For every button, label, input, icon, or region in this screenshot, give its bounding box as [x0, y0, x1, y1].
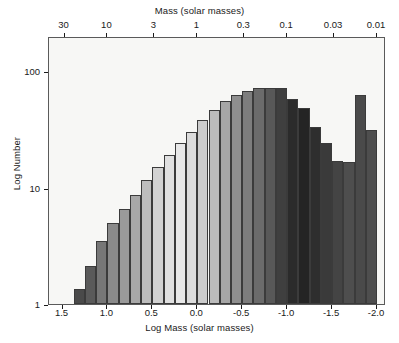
top-axis-title: Mass (solar masses)	[0, 5, 399, 16]
top-tick-label: 0.3	[223, 19, 263, 30]
top-tick-label: 3	[133, 19, 173, 30]
histogram-bar	[119, 209, 130, 304]
histogram-bar	[186, 132, 197, 304]
histogram-bar	[74, 289, 85, 304]
top-tick-label: 10	[86, 19, 126, 30]
histogram-bar	[242, 91, 253, 304]
histogram-bar	[231, 95, 242, 304]
histogram-bar	[298, 108, 309, 304]
top-tick-label: 0.03	[313, 19, 353, 30]
x-tick-label: -1.5	[311, 307, 351, 318]
histogram-bar	[209, 110, 220, 304]
x-tick-label: -0.5	[221, 307, 261, 318]
histogram-bar	[175, 143, 186, 304]
histogram-bar	[287, 99, 298, 304]
histogram-bar	[152, 167, 163, 304]
histogram-bar	[355, 95, 366, 304]
x-tick-label: -1.0	[266, 307, 306, 318]
histogram-bar	[164, 155, 175, 304]
histogram-bar	[253, 88, 264, 304]
x-tick-label: -2.0	[356, 307, 396, 318]
x-tick-label: 0.5	[131, 307, 171, 318]
x-axis-title: Log Mass (solar masses)	[0, 322, 399, 333]
histogram-bar	[366, 130, 377, 304]
top-tick-label: 1	[176, 19, 216, 30]
x-tick-label: 1.0	[86, 307, 126, 318]
top-tick-label: 30	[44, 19, 84, 30]
histogram-bar	[220, 101, 231, 304]
histogram-figure: Mass (solar masses) Log Number Log Mass …	[0, 0, 399, 343]
y-tick-label: 100	[0, 66, 40, 77]
histogram-bar	[197, 120, 208, 304]
histogram-bar	[276, 88, 287, 304]
histogram-bar	[107, 223, 118, 304]
y-tick-mark	[44, 305, 48, 306]
histogram-bar	[96, 241, 107, 304]
histogram-bars	[49, 38, 384, 304]
histogram-bar	[141, 180, 152, 304]
histogram-bar	[332, 161, 343, 304]
histogram-bar	[265, 88, 276, 304]
plot-area	[48, 37, 385, 305]
x-tick-label: 1.5	[42, 307, 82, 318]
histogram-bar	[321, 143, 332, 304]
top-tick-label: 0.01	[356, 19, 396, 30]
top-tick-label: 0.1	[266, 19, 306, 30]
histogram-bar	[130, 195, 141, 304]
y-tick-label: 1	[0, 299, 40, 310]
histogram-bar	[310, 127, 321, 304]
histogram-bar	[85, 266, 96, 304]
x-tick-label: 0.0	[176, 307, 216, 318]
y-tick-label: 10	[0, 183, 40, 194]
histogram-bar	[343, 162, 354, 304]
